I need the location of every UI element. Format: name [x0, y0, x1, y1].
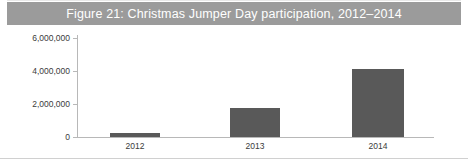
bar-2013 — [230, 108, 280, 137]
bottom-divider — [0, 158, 468, 159]
x-axis-tick-label-2012: 2012 — [126, 141, 145, 151]
top-divider — [7, 0, 461, 1]
y-axis-tick-label: 6,000,000 — [32, 34, 70, 43]
y-axis-tick-label: 4,000,000 — [32, 67, 70, 76]
x-axis-tick-label-2013: 2013 — [246, 141, 265, 151]
figure-title: Figure 21: Christmas Jumper Day particip… — [66, 7, 402, 21]
y-axis-tick-labels: 6,000,000 4,000,000 2,000,000 0 — [0, 26, 74, 158]
x-axis-line — [77, 137, 434, 138]
figure-container: Figure 21: Christmas Jumper Day particip… — [0, 0, 468, 168]
y-axis-tick-label: 0 — [65, 133, 70, 142]
x-axis-tick-label-2014: 2014 — [369, 141, 388, 151]
bar-2014 — [352, 69, 404, 137]
chart-plot-area: 6,000,000 4,000,000 2,000,000 0 2012 201… — [0, 26, 468, 158]
figure-title-band: Figure 21: Christmas Jumper Day particip… — [7, 2, 461, 25]
bar-series — [78, 26, 434, 137]
y-axis-tick-label: 2,000,000 — [32, 100, 70, 109]
x-axis-tick-labels: 2012 2013 2014 — [78, 141, 434, 155]
